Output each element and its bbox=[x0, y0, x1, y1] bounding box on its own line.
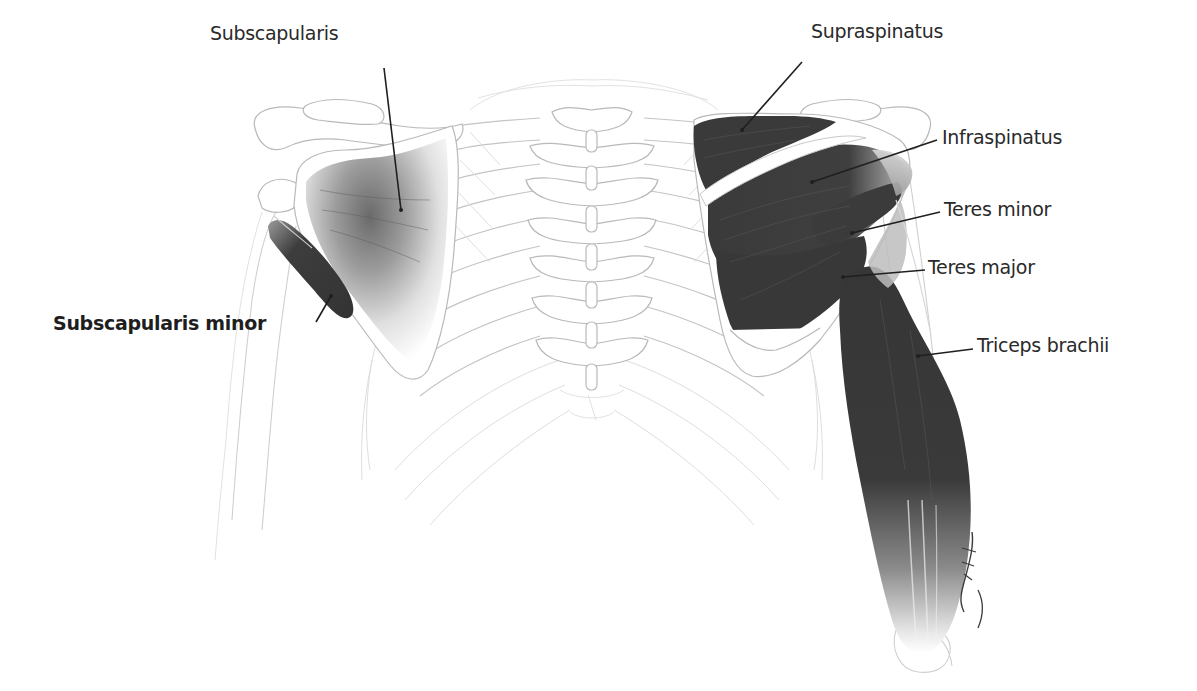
anatomy-diagram: Subscapularis Subscapularis minor Supras… bbox=[0, 0, 1197, 691]
spine bbox=[526, 108, 658, 420]
label-triceps-brachii: Triceps brachii bbox=[977, 336, 1109, 355]
label-teres-minor: Teres minor bbox=[944, 200, 1051, 219]
label-subscapularis: Subscapularis bbox=[210, 24, 338, 43]
label-supraspinatus: Supraspinatus bbox=[811, 22, 943, 41]
label-teres-major: Teres major bbox=[928, 258, 1035, 277]
label-infraspinatus: Infraspinatus bbox=[942, 128, 1062, 147]
label-subscapularis-minor: Subscapularis minor bbox=[53, 314, 266, 333]
triceps-brachii-muscle bbox=[839, 266, 971, 652]
